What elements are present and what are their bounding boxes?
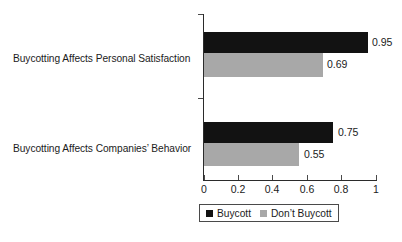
bar-dont-buycott-personal-satisfaction	[204, 53, 323, 77]
bar-chart: Buycotting Affects Personal Satisfaction…	[0, 0, 402, 242]
y-axis-tick-top	[198, 14, 203, 15]
y-axis-tick-middle	[198, 98, 203, 99]
x-axis-tick-0	[204, 175, 205, 180]
x-axis-tick-0-4	[272, 175, 273, 180]
chart-legend: Buycott Don’t Buycott	[199, 204, 339, 222]
x-axis-tick-0-6	[307, 175, 308, 180]
legend-label-buycott: Buycott	[217, 208, 251, 219]
bar-buycott-companies-behavior	[204, 122, 333, 143]
bar-buycott-personal-satisfaction	[204, 32, 368, 53]
x-axis-label-0-4: 0.4	[260, 183, 284, 195]
legend-item-buycott: Buycott	[206, 208, 251, 219]
x-axis-label-1: 1	[364, 183, 388, 195]
x-axis-label-0-2: 0.2	[226, 183, 250, 195]
legend-item-dont-buycott: Don’t Buycott	[260, 208, 332, 219]
legend-swatch-icon-buycott	[206, 210, 213, 217]
x-axis-tick-0-8	[341, 175, 342, 180]
x-axis-label-0-8: 0.8	[329, 183, 353, 195]
category-label-companies-behavior: Buycotting Affects Companies’ Behavior	[13, 143, 201, 154]
bar-dont-buycott-companies-behavior	[204, 143, 299, 166]
x-axis-label-0-6: 0.6	[295, 183, 319, 195]
bar-value-dont-buycott-companies-behavior: 0.55	[304, 148, 324, 160]
x-axis-line	[203, 180, 377, 181]
bar-value-buycott-personal-satisfaction: 0.95	[372, 36, 392, 48]
category-label-personal-satisfaction: Buycotting Affects Personal Satisfaction	[13, 53, 201, 64]
legend-label-dont-buycott: Don’t Buycott	[271, 208, 332, 219]
legend-swatch-icon-dont-buycott	[260, 210, 267, 217]
bar-value-buycott-companies-behavior: 0.75	[338, 126, 358, 138]
bar-value-dont-buycott-personal-satisfaction: 0.69	[327, 58, 347, 70]
x-axis-tick-0-2	[238, 175, 239, 180]
x-axis-label-0: 0	[192, 183, 216, 195]
x-axis-tick-1	[376, 175, 377, 180]
